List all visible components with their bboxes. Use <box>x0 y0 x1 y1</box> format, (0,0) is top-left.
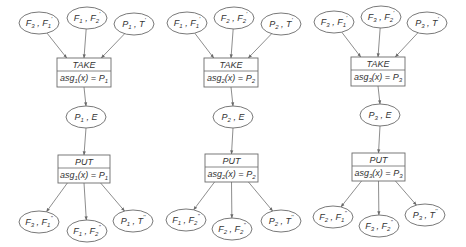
output-place-1-2[interactable]: F1 , F2'' <box>67 220 107 242</box>
input-place-2-1[interactable]: F1 , F1' <box>167 12 207 34</box>
arc-arrow <box>46 183 67 212</box>
transition-guard: asg3(x) = P3 <box>354 72 403 83</box>
arc-arrow <box>194 182 215 210</box>
input-place-3-2[interactable]: F3 , F2' <box>361 6 401 28</box>
arc-arrow <box>342 32 361 57</box>
put-transition-1[interactable]: PUTasg1(x) = P1 <box>58 155 110 183</box>
transition-title: PUT <box>75 157 95 167</box>
arc-arrow <box>378 28 380 57</box>
place-label: P2 , E <box>222 112 246 123</box>
transition-title: TAKE <box>220 60 244 70</box>
transition-guard: asg2(x) = P2 <box>207 73 256 84</box>
take-transition-3[interactable]: TAKEasg3(x) = P3 <box>351 57 405 86</box>
output-place-2-3[interactable]: P2 , T'' <box>261 210 301 232</box>
state-place-1[interactable]: P1 , E <box>66 106 106 128</box>
transition-guard: asg3(x) = P3 <box>355 168 404 179</box>
output-place-1-3[interactable]: P1 , T'' <box>113 210 153 232</box>
transition-title: TAKE <box>73 60 97 70</box>
input-place-2-2[interactable]: F2 , F2' <box>214 7 254 29</box>
arc-arrow <box>195 33 214 58</box>
output-place-2-2[interactable]: F2 , F2'' <box>212 218 252 240</box>
state-place-2[interactable]: P2 , E <box>213 106 253 128</box>
put-transition-2[interactable]: PUTasg2(x) = P2 <box>205 154 258 182</box>
output-place-2-1[interactable]: F1 , F2'' <box>166 209 206 231</box>
input-place-1-1[interactable]: F3 , F1' <box>19 12 59 34</box>
place-label: P3 , E <box>369 110 393 121</box>
input-place-1-2[interactable]: F1 , F2' <box>67 7 107 29</box>
input-place-3-1[interactable]: F3 , F1' <box>314 11 354 33</box>
take-transition-2[interactable]: TAKEasg2(x) = P2 <box>204 58 258 87</box>
arc-arrow <box>47 33 67 58</box>
output-place-1-1[interactable]: F3 , F1'' <box>19 211 59 233</box>
nodes: F3 , F1'F1 , F2'P1 , T'TAKEasg1(x) = P1P… <box>19 6 447 242</box>
arc-arrow <box>232 128 234 154</box>
input-place-3-3[interactable]: P3 , T' <box>407 12 447 34</box>
arc-arrow <box>248 182 272 211</box>
transition-title: TAKE <box>367 59 391 69</box>
arc-arrow <box>395 181 416 205</box>
arc-arrow <box>341 181 362 207</box>
transition-guard: asg1(x) = P1 <box>60 170 108 181</box>
transition-title: PUT <box>370 155 390 165</box>
arc-arrow <box>395 33 418 57</box>
transition-guard: asg2(x) = P2 <box>208 169 257 180</box>
place-label: P2 , T'' <box>269 214 295 227</box>
place-label: P1 , T' <box>122 17 146 30</box>
arc-arrow <box>379 126 381 153</box>
transition-guard: asg1(x) = P1 <box>60 73 108 84</box>
petri-net-diagram: F3 , F1'F1 , F2'P1 , T'TAKEasg1(x) = P1P… <box>0 0 466 247</box>
arc-arrow <box>248 34 271 58</box>
output-place-3-1[interactable]: F2 , F1'' <box>313 206 353 228</box>
output-place-3-2[interactable]: F3 , F2'' <box>359 215 399 237</box>
arc-arrow <box>84 29 86 58</box>
input-place-2-3[interactable]: P2 , T' <box>261 13 301 35</box>
arc-arrow <box>84 128 86 155</box>
state-place-3[interactable]: P3 , E <box>360 104 400 126</box>
arc-arrow <box>378 86 380 104</box>
output-place-3-3[interactable]: P3 , T'' <box>405 204 445 226</box>
transition-title: PUT <box>223 156 243 166</box>
input-place-1-3[interactable]: P1 , T' <box>114 13 154 35</box>
place-label: P3 , T' <box>415 16 439 29</box>
place-label: P3 , T'' <box>413 208 439 221</box>
put-transition-3[interactable]: PUTasg3(x) = P3 <box>352 153 405 181</box>
place-label: P1 , E <box>75 112 99 123</box>
place-label: P2 , T' <box>269 17 293 30</box>
take-transition-1[interactable]: TAKEasg1(x) = P1 <box>57 58 111 87</box>
arc-arrow <box>101 183 125 211</box>
arc-arrow <box>101 34 124 58</box>
arc-arrow <box>231 87 233 106</box>
place-label: P1 , T'' <box>121 214 147 227</box>
arc-arrow <box>231 29 233 58</box>
arc-arrow <box>84 87 86 106</box>
arc-arrow <box>84 183 86 220</box>
